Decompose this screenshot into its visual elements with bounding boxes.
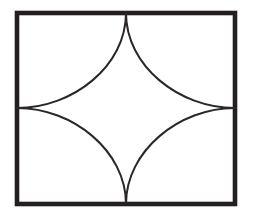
figure-container: Square with four inward quarter-arcs for… [0,0,254,221]
geometric-figure-svg [0,0,254,221]
